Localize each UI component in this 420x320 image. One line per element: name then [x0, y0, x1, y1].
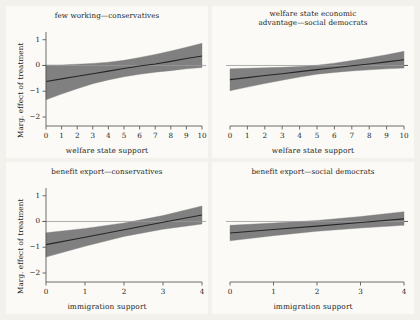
y-tick-label: −1	[22, 242, 40, 251]
x-tick-label: 10	[394, 131, 414, 140]
x-tick-label: 0	[220, 287, 240, 296]
x-tick-label: 0	[36, 287, 56, 296]
x-tick-label: 2	[114, 287, 134, 296]
x-tick-label: 1	[264, 287, 284, 296]
x-tick-label: 4	[394, 287, 414, 296]
y-tick-label: −2	[22, 268, 40, 277]
confidence-band	[230, 51, 404, 90]
panel-top-right: welfare state economic advantage—social …	[212, 6, 414, 158]
panel-top-left: few working—conservatives Marg. effect o…	[6, 6, 208, 158]
x-tick-label: 1	[75, 287, 95, 296]
x-axis-label-bottom-left: immigration support	[6, 302, 208, 311]
x-tick-label: 3	[153, 287, 173, 296]
y-tick-label: −1	[22, 86, 40, 95]
y-tick-label: 0	[22, 60, 40, 69]
marginal-effects-figure: few working—conservatives Marg. effect o…	[0, 0, 420, 320]
y-tick-label: 0	[22, 216, 40, 225]
confidence-band	[46, 206, 202, 257]
x-tick-label: 2	[307, 287, 327, 296]
y-tick-label: −2	[22, 112, 40, 121]
x-axis-label-top-right: welfare state support	[212, 146, 414, 155]
x-axis-label-bottom-right: immigration support	[212, 302, 414, 311]
y-tick-label: 1	[22, 35, 40, 44]
x-axis-label-top-left: welfare state support	[6, 146, 208, 155]
y-tick-label: 1	[22, 191, 40, 200]
panel-bottom-right: benefit export—social democrats immigrat…	[212, 162, 414, 314]
x-tick-label: 3	[351, 287, 371, 296]
panel-bottom-left: benefit export—conservatives Marg. effec…	[6, 162, 208, 314]
x-tick-label: 10	[192, 131, 212, 140]
marginal-effect-line	[46, 215, 202, 245]
x-tick-label: 4	[192, 287, 212, 296]
confidence-band	[46, 43, 202, 99]
